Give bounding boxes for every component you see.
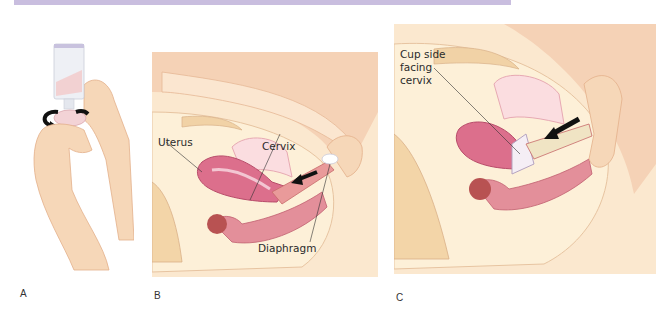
panel-a-illustration	[14, 30, 134, 285]
panel-b: Uterus Cervix Diaphragm B	[152, 52, 378, 277]
panel-b-label: B	[154, 290, 161, 301]
panel-a-label: A	[20, 288, 27, 299]
callout-cup-side-line3: cervix	[400, 74, 432, 86]
tube-crimp	[54, 44, 84, 48]
callout-cup-side-line1: Cup side	[400, 48, 446, 60]
callout-diaphragm: Diaphragm	[258, 242, 316, 254]
callout-uterus: Uterus	[158, 136, 193, 148]
left-hand	[34, 124, 109, 270]
callout-cup-side-line2: facing	[400, 61, 432, 73]
diaphragm	[322, 154, 338, 164]
callout-cervix: Cervix	[262, 140, 295, 152]
rectum-lumen	[207, 214, 227, 234]
header-bar	[14, 0, 511, 5]
panel-b-illustration: Uterus Cervix Diaphragm	[152, 52, 378, 277]
panel-c: Cup side facing cervix C	[394, 24, 656, 274]
rectum-lumen	[469, 178, 491, 200]
panel-a: A	[14, 30, 134, 285]
panel-c-label: C	[396, 292, 403, 303]
panel-c-illustration: Cup side facing cervix	[394, 24, 656, 274]
right-hand	[84, 80, 134, 240]
tube-nozzle	[64, 99, 74, 109]
